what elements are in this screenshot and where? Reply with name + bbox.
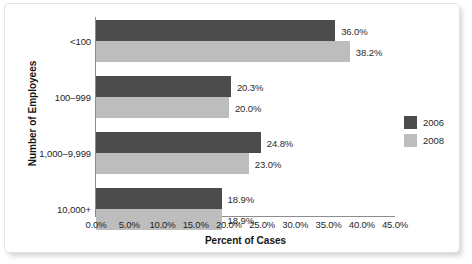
- bar-2006-2[interactable]: [96, 76, 231, 97]
- bar-value-label: 23.0%: [255, 158, 281, 169]
- x-tick-label: 20.0%: [216, 219, 242, 230]
- bar-group: 20.3%20.0%: [96, 76, 395, 118]
- x-tick-label: 5.0%: [119, 219, 140, 230]
- bar-2008-1[interactable]: [96, 41, 350, 62]
- bar-2008-2[interactable]: [96, 97, 229, 118]
- bar-2006-4[interactable]: [96, 188, 222, 209]
- x-tick-label: 0.0%: [86, 219, 107, 230]
- x-tick-label: 25.0%: [249, 219, 275, 230]
- x-tick-label: 40.0%: [349, 219, 375, 230]
- bar-row: 24.8%: [96, 132, 395, 153]
- y-tick-label: 1,000–9,999: [5, 148, 91, 159]
- x-axis-title: Percent of Cases: [96, 235, 395, 246]
- y-axis-title: Number of Employees: [27, 44, 38, 184]
- bar-2006-3[interactable]: [96, 132, 261, 153]
- bar-row: 20.0%: [96, 97, 395, 118]
- bar-row: 38.2%: [96, 41, 395, 62]
- chart-legend: 20062008: [404, 114, 460, 150]
- bar-row: 20.3%: [96, 76, 395, 97]
- legend-swatch-icon: [404, 116, 417, 129]
- x-tick-label: 15.0%: [183, 219, 209, 230]
- y-tick-label: 100–999: [5, 92, 91, 103]
- y-tick-label: <100: [5, 36, 91, 47]
- chart-card: 36.0%38.2%20.3%20.0%24.8%23.0%18.9%18.9%…: [4, 3, 460, 253]
- x-tick-label: 10.0%: [149, 219, 175, 230]
- x-tick-label: 45.0%: [382, 219, 408, 230]
- bar-row: 18.9%: [96, 188, 395, 209]
- x-tick-label: 30.0%: [282, 219, 308, 230]
- x-axis-tick-labels: 0.0%5.0%10.0%15.0%20.0%25.0%30.0%35.0%40…: [5, 219, 461, 235]
- bar-value-label: 38.2%: [356, 46, 382, 57]
- bar-row: 23.0%: [96, 153, 395, 174]
- legend-item-2008[interactable]: 2008: [404, 132, 460, 148]
- legend-label: 2006: [423, 117, 444, 128]
- y-tick-label: 10,000+: [5, 204, 91, 215]
- legend-swatch-icon: [404, 134, 417, 147]
- legend-item-2006[interactable]: 2006: [404, 114, 460, 130]
- bar-value-label: 20.3%: [237, 81, 263, 92]
- bar-group: 36.0%38.2%: [96, 20, 395, 62]
- bar-value-label: 20.0%: [235, 102, 261, 113]
- x-tick-label: 35.0%: [316, 219, 342, 230]
- bar-2008-3[interactable]: [96, 153, 249, 174]
- bar-value-label: 18.9%: [228, 193, 254, 204]
- legend-label: 2008: [423, 135, 444, 146]
- bar-value-label: 24.8%: [267, 137, 293, 148]
- bar-row: 36.0%: [96, 20, 395, 41]
- bar-2006-1[interactable]: [96, 20, 335, 41]
- bar-value-label: 36.0%: [341, 25, 367, 36]
- bar-group: 24.8%23.0%: [96, 132, 395, 174]
- plot-area: 36.0%38.2%20.3%20.0%24.8%23.0%18.9%18.9%: [96, 18, 395, 216]
